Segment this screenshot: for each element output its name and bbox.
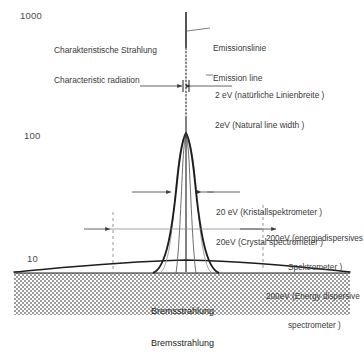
energy-dispersive-de-line2: Spektrometer ) — [266, 263, 363, 273]
y-tick-100: 100 — [24, 130, 40, 141]
characteristic-radiation-de: Charakteristische Strahlung — [54, 46, 157, 56]
emission-line-de: Emissionslinie — [213, 44, 266, 54]
bremsstrahlung-de: Bremsstrahlung — [151, 306, 214, 317]
natural-line-width-label: 2 eV (natürliche Linienbreite ) 2eV (Nat… — [215, 71, 324, 150]
natural-line-width-en: 2eV (Natural line width ) — [215, 121, 324, 131]
energy-dispersive-label: 200eV (energiedispersives Spektrometer )… — [266, 215, 363, 350]
bremsstrahlung-en: Bremsstrahlung — [151, 338, 214, 349]
natural-line-width-de: 2 eV (natürliche Linienbreite ) — [215, 91, 324, 101]
energy-dispersive-en-line1: 200eV (Energy dispersive — [266, 292, 363, 302]
emission-line-leader — [187, 28, 210, 31]
characteristic-radiation-en: Characteristic radiation — [54, 76, 157, 86]
bremsstrahlung-label: Bremsstrahlung Bremsstrahlung — [151, 285, 214, 352]
y-tick-10: 10 — [27, 253, 38, 264]
energy-dispersive-en-line2: spectrometer ) — [266, 321, 363, 331]
y-tick-1000: 1000 — [20, 10, 42, 21]
energy-dispersive-de-line1: 200eV (energiedispersives — [266, 234, 363, 244]
characteristic-radiation-label: Charakteristische Strahlung Characterist… — [54, 26, 157, 105]
